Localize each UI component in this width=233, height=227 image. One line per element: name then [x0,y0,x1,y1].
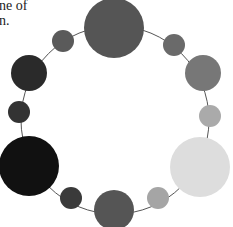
node-upper-right-small [163,34,185,56]
node-right-small [199,105,221,127]
node-bottom-medium [94,190,134,227]
node-left-medium [11,55,47,91]
node-bottom-right-small [147,187,169,209]
ring-nodes [0,0,230,227]
node-top-large [84,0,144,58]
node-upper-left-small [52,30,74,52]
circle-ring-diagram [0,0,233,227]
node-right-medium [185,55,221,91]
node-lower-left-large [0,136,59,196]
node-left-small [8,101,30,123]
node-lower-right-large [170,137,230,197]
node-bottom-left-small [60,187,82,209]
